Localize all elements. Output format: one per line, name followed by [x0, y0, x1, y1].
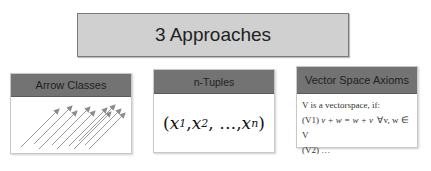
axiom-intro: V is a vectorspace, if:	[302, 98, 417, 113]
open-paren: (	[163, 113, 170, 133]
card-header-label: n-Tuples	[194, 76, 234, 88]
axioms-text: V is a vectorspace, if: (V1) v + w = w +…	[297, 94, 417, 158]
title-box: 3 Approaches	[77, 13, 349, 57]
sep-2: , …,	[208, 113, 241, 133]
card-arrow-classes: Arrow Classes	[10, 73, 132, 154]
x2-sub: 2	[201, 117, 208, 130]
card-vector-space-axioms: Vector Space Axioms V is a vectorspace, …	[296, 66, 418, 148]
close-paren: )	[258, 113, 265, 133]
card-n-tuples: n-Tuples ( x1 , x2 , …, xn )	[153, 69, 275, 153]
x1-var: x	[170, 113, 180, 133]
title-text: 3 Approaches	[155, 24, 271, 46]
card-header-n-tuples: n-Tuples	[154, 70, 274, 94]
axiom-v2: (V2) …	[302, 143, 417, 158]
xn-var: x	[242, 113, 252, 133]
x1-sub: 1	[179, 117, 186, 130]
xn-sub: n	[251, 117, 258, 130]
tuple-formula: ( x1 , x2 , …, xn )	[154, 94, 274, 152]
axiom-v1-formula: v + w = w + v	[321, 115, 373, 125]
card-header-label: Vector Space Axioms	[305, 74, 409, 86]
axiom-v1: (V1) v + w = w + v ∀v, w ∈ V	[302, 113, 417, 143]
parallel-arrows-icon	[11, 97, 131, 154]
card-header-arrow-classes: Arrow Classes	[11, 74, 131, 97]
card-header-vector-space-axioms: Vector Space Axioms	[297, 67, 417, 94]
axiom-v1-label: (V1)	[302, 115, 321, 125]
card-header-label: Arrow Classes	[36, 79, 107, 91]
x2-var: x	[192, 113, 202, 133]
